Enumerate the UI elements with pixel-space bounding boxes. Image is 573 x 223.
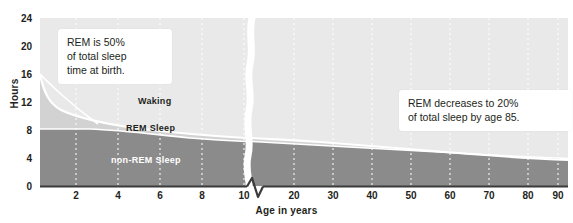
- sleep-stacked-area-chart: Hours Age in years 24 20 16 12 8 4 0 2 4…: [0, 0, 573, 223]
- band-label-waking: Waking: [138, 96, 171, 106]
- band-label-non-rem: non-REM Sleep: [111, 155, 181, 165]
- annotation-age85-note: REM decreases to 20% of total sleep by a…: [399, 90, 572, 131]
- band-label-rem: REM Sleep: [126, 123, 175, 133]
- annotation-birth-note: REM is 50% of total sleep time at birth.: [58, 29, 172, 84]
